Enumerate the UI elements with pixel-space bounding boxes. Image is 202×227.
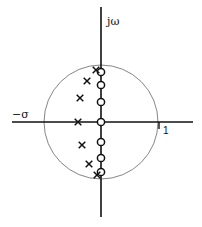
zero-marker	[97, 81, 104, 88]
pole-marker	[79, 142, 86, 149]
zeros-group	[97, 68, 104, 175]
pole-marker	[77, 95, 84, 102]
zero-marker	[97, 138, 104, 145]
imag-axis-label: jω	[105, 15, 119, 28]
zero-marker	[97, 98, 104, 105]
pole-marker	[84, 78, 91, 85]
neg-real-axis-label: −σ	[12, 108, 29, 121]
pole-marker	[86, 161, 93, 168]
zero-marker	[97, 154, 104, 161]
pole-zero-plot: jω −σ 1	[0, 0, 202, 227]
zero-marker	[97, 118, 104, 125]
unit-label: 1	[163, 125, 169, 136]
